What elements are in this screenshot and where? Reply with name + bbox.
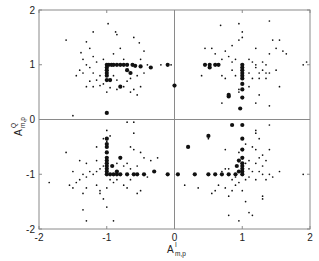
small-data-point bbox=[269, 173, 271, 175]
small-data-point bbox=[136, 193, 138, 195]
small-data-point bbox=[238, 220, 240, 222]
axis-ticks: -2-1012-2-1012 bbox=[26, 5, 313, 244]
small-data-point bbox=[248, 58, 250, 60]
x-tick-label: 1 bbox=[239, 232, 245, 243]
data-points bbox=[48, 20, 307, 222]
small-data-point bbox=[231, 69, 233, 71]
small-data-point bbox=[224, 149, 226, 151]
small-data-point bbox=[231, 190, 233, 192]
small-data-point bbox=[82, 72, 84, 74]
small-data-point bbox=[255, 64, 257, 66]
large-data-point bbox=[142, 172, 146, 176]
small-data-point bbox=[258, 94, 260, 96]
zero-axis-lines bbox=[39, 10, 310, 229]
large-data-point bbox=[208, 65, 212, 69]
small-data-point bbox=[279, 171, 281, 173]
small-data-point bbox=[262, 165, 264, 167]
small-data-point bbox=[241, 37, 243, 39]
small-data-point bbox=[228, 56, 230, 58]
small-data-point bbox=[211, 193, 213, 195]
small-data-point bbox=[140, 190, 142, 192]
small-data-point bbox=[265, 78, 267, 80]
large-data-point bbox=[238, 106, 242, 110]
small-data-point bbox=[235, 176, 237, 178]
small-data-point bbox=[224, 168, 226, 170]
small-data-point bbox=[103, 165, 105, 167]
small-data-point bbox=[228, 214, 230, 216]
small-data-point bbox=[130, 179, 132, 181]
small-data-point bbox=[96, 171, 98, 173]
large-data-point bbox=[105, 156, 109, 160]
small-data-point bbox=[221, 58, 223, 60]
small-data-point bbox=[96, 160, 98, 162]
large-data-point bbox=[152, 169, 156, 173]
small-data-point bbox=[252, 146, 254, 148]
small-data-point bbox=[238, 152, 240, 154]
small-data-point bbox=[143, 157, 145, 159]
large-data-point bbox=[110, 164, 114, 168]
small-data-point bbox=[113, 220, 115, 222]
small-data-point bbox=[82, 58, 84, 60]
small-data-point bbox=[143, 50, 145, 52]
small-data-point bbox=[275, 69, 277, 71]
small-data-point bbox=[245, 162, 247, 164]
small-data-point bbox=[92, 173, 94, 175]
large-data-point bbox=[240, 87, 244, 91]
x-label-main: A bbox=[167, 244, 174, 255]
small-data-point bbox=[86, 176, 88, 178]
small-data-point bbox=[136, 94, 138, 96]
small-data-point bbox=[86, 64, 88, 66]
small-data-point bbox=[228, 168, 230, 170]
small-data-point bbox=[126, 187, 128, 189]
small-data-point bbox=[113, 53, 115, 55]
large-data-point bbox=[206, 172, 210, 176]
y-label-sup: Q bbox=[10, 123, 18, 128]
small-data-point bbox=[269, 72, 271, 74]
small-data-point bbox=[136, 165, 138, 167]
small-data-point bbox=[224, 187, 226, 189]
small-data-point bbox=[262, 154, 264, 156]
small-data-point bbox=[133, 89, 135, 91]
small-data-point bbox=[238, 23, 240, 25]
small-data-point bbox=[86, 162, 88, 164]
small-data-point bbox=[245, 179, 247, 181]
small-data-point bbox=[245, 143, 247, 145]
small-data-point bbox=[252, 61, 254, 63]
small-data-point bbox=[143, 72, 145, 74]
small-data-point bbox=[275, 47, 277, 49]
small-data-point bbox=[265, 160, 267, 162]
small-data-point bbox=[258, 171, 260, 173]
large-data-point bbox=[240, 82, 244, 86]
large-data-point bbox=[237, 159, 241, 163]
small-data-point bbox=[103, 198, 105, 200]
small-data-point bbox=[218, 184, 220, 186]
small-data-point bbox=[235, 75, 237, 77]
small-data-point bbox=[252, 214, 254, 216]
small-data-point bbox=[265, 179, 267, 181]
small-data-point bbox=[248, 168, 250, 170]
small-data-point bbox=[116, 34, 118, 36]
small-data-point bbox=[285, 53, 287, 55]
small-data-point bbox=[272, 39, 274, 41]
small-data-point bbox=[99, 75, 101, 77]
large-data-point bbox=[213, 63, 217, 67]
small-data-point bbox=[130, 146, 132, 148]
x-tick-label: -1 bbox=[102, 232, 111, 243]
small-data-point bbox=[214, 53, 216, 55]
small-data-point bbox=[255, 179, 257, 181]
small-data-point bbox=[241, 190, 243, 192]
small-data-point bbox=[92, 31, 94, 33]
small-data-point bbox=[89, 67, 91, 69]
small-data-point bbox=[224, 78, 226, 80]
y-tick-label: -1 bbox=[26, 169, 35, 180]
small-data-point bbox=[221, 75, 223, 77]
small-data-point bbox=[302, 64, 304, 66]
small-data-point bbox=[238, 182, 240, 184]
small-data-point bbox=[255, 67, 257, 69]
small-data-point bbox=[248, 176, 250, 178]
small-data-point bbox=[133, 37, 135, 39]
large-data-point bbox=[193, 172, 197, 176]
large-data-point bbox=[115, 169, 119, 173]
small-data-point bbox=[252, 171, 254, 173]
small-data-point bbox=[133, 121, 135, 123]
